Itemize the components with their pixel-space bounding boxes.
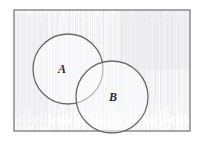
venn-diagram-canvas: A B [0,0,202,141]
venn-diagram-figure: A B [0,0,202,141]
set-b-label: B [108,90,117,104]
set-a-label: A [57,62,66,76]
pencil-smudge-top-right [120,10,190,70]
